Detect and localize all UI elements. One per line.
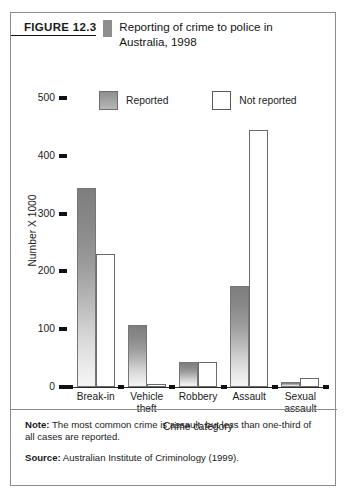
footer-note-tag: Note: bbox=[25, 419, 50, 430]
legend-swatch-reported-icon bbox=[99, 91, 118, 110]
y-tick-label: 200 bbox=[21, 266, 55, 276]
y-tick-mark bbox=[59, 212, 67, 216]
y-tick-mark bbox=[59, 385, 67, 389]
x-category-label: Assault bbox=[224, 391, 275, 403]
figure-number-label: FIGURE 12.3 bbox=[11, 20, 96, 36]
bar-assault-reported bbox=[230, 286, 249, 387]
x-category-label: Break-in bbox=[70, 391, 121, 403]
legend-swatch-not-reported-icon bbox=[212, 91, 231, 110]
figure-frame: FIGURE 12.3 Reporting of crime to police… bbox=[10, 12, 336, 486]
header-accent-block bbox=[103, 20, 112, 37]
legend-label-not-reported: Not reported bbox=[239, 95, 296, 106]
bar-robbery-reported bbox=[179, 362, 198, 387]
footer-note: Note: The most common crime is assault, … bbox=[25, 419, 323, 444]
y-tick-mark bbox=[59, 327, 67, 331]
y-tick-label: 100 bbox=[21, 324, 55, 334]
figure-header: FIGURE 12.3 Reporting of crime to police… bbox=[11, 13, 337, 57]
bar-break-in-not-reported bbox=[96, 254, 115, 387]
y-tick-label: 500 bbox=[21, 93, 55, 103]
chart-plot-area: Reported Not reported Number X 1000 0100… bbox=[11, 57, 337, 409]
legend-label-reported: Reported bbox=[126, 95, 168, 106]
y-tick-label: 300 bbox=[21, 209, 55, 219]
x-tick-mark bbox=[118, 385, 124, 389]
figure-title: Reporting of crime to police in Australi… bbox=[119, 20, 315, 49]
x-tick-mark bbox=[272, 385, 278, 389]
y-tick-label: 400 bbox=[21, 151, 55, 161]
bar-vehicle-theft-not-reported bbox=[147, 384, 166, 387]
x-tick-mark bbox=[67, 385, 73, 389]
legend-entry-not-reported: Not reported bbox=[212, 91, 296, 110]
footer-note-text: The most common crime is assault, but le… bbox=[25, 419, 311, 442]
bar-sexual-assault-reported bbox=[281, 382, 300, 387]
x-category-label: Robbery bbox=[172, 391, 223, 403]
x-axis-line bbox=[70, 387, 326, 388]
footer-source: Source: Australian Institute of Criminol… bbox=[25, 452, 323, 464]
bar-break-in-reported bbox=[77, 188, 96, 387]
y-tick-label: 0 bbox=[21, 382, 55, 392]
bar-assault-not-reported bbox=[249, 130, 268, 387]
bar-vehicle-theft-reported bbox=[128, 325, 147, 387]
chart-legend: Reported Not reported bbox=[99, 91, 297, 110]
x-tick-mark bbox=[323, 385, 329, 389]
legend-entry-reported: Reported bbox=[99, 91, 168, 110]
y-tick-mark bbox=[59, 154, 67, 158]
footer-source-text: Australian Institute of Criminology (199… bbox=[61, 452, 239, 463]
y-axis-title: Number X 1000 bbox=[27, 183, 38, 279]
x-tick-mark bbox=[221, 385, 227, 389]
bar-robbery-not-reported bbox=[198, 362, 217, 387]
y-tick-mark bbox=[59, 96, 67, 100]
y-tick-mark bbox=[59, 269, 67, 273]
figure-footer: Note: The most common crime is assault, … bbox=[11, 409, 337, 485]
bar-sexual-assault-not-reported bbox=[300, 378, 319, 387]
footer-source-tag: Source: bbox=[25, 452, 61, 463]
x-tick-mark bbox=[169, 385, 175, 389]
